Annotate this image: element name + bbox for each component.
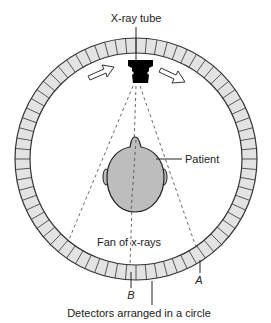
ct-scanner-diagram: X-ray tube Patient Fan of x-rays A B Det… xyxy=(0,0,271,323)
patient-head-icon xyxy=(103,137,167,212)
fan-label: Fan of x-rays xyxy=(97,236,162,248)
detectors-label: Detectors arranged in a circle xyxy=(67,307,211,319)
detector-b-label: B xyxy=(127,289,134,301)
rotation-arrow-left-icon xyxy=(88,65,114,80)
detector-a-label: A xyxy=(194,274,202,286)
xray-tube-icon xyxy=(128,60,153,83)
patient-label: Patient xyxy=(185,153,219,165)
rotation-arrow-right-icon xyxy=(159,68,185,83)
xray-tube-label: X-ray tube xyxy=(111,12,162,24)
